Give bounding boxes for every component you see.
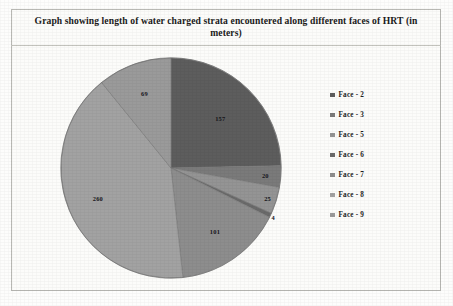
pie-data-label-4: 4 (272, 213, 275, 220)
legend-item-5[interactable]: Face - 7 (330, 165, 426, 185)
figure-page: Graph showing length of water charged st… (0, 0, 453, 306)
legend-item-label: Face - 2 (339, 91, 365, 99)
legend-item-label: Face - 9 (339, 211, 365, 219)
pie-data-label-6: 260 (93, 195, 103, 202)
legend-item-label: Face - 7 (339, 171, 365, 179)
pie-data-label-3: 25 (264, 195, 271, 202)
legend-swatch-icon (330, 193, 335, 198)
plot-area: 1572025410126069 (12, 47, 312, 290)
title-block: Graph showing length of water charged st… (11, 9, 441, 46)
legend-item-6[interactable]: Face - 8 (330, 185, 426, 205)
pie-data-label-5: 101 (210, 228, 220, 235)
legend-item-label: Face - 3 (339, 111, 365, 119)
pie-slice-1[interactable] (171, 58, 281, 168)
legend-swatch-icon (330, 213, 335, 218)
legend-item-1[interactable]: Face - 2 (330, 85, 426, 105)
chart-title: Graph showing length of water charged st… (25, 15, 427, 40)
legend-item-3[interactable]: Face - 5 (330, 125, 426, 145)
legend-swatch-icon (330, 113, 335, 118)
legend-swatch-icon (330, 133, 335, 138)
legend-swatch-icon (330, 93, 335, 98)
pie-svg (60, 57, 282, 279)
pie-data-label-2: 20 (262, 172, 269, 179)
legend-swatch-icon (330, 153, 335, 158)
pie-chart: 1572025410126069 (60, 57, 282, 279)
pie-slice-group (61, 58, 281, 278)
pie-data-label-7: 69 (141, 90, 148, 97)
legend-item-label: Face - 5 (339, 131, 365, 139)
legend-item-label: Face - 6 (339, 151, 365, 159)
legend-item-label: Face - 8 (339, 191, 365, 199)
legend: Face - 2Face - 3Face - 5Face - 6Face - 7… (330, 85, 426, 225)
pie-data-label-1: 157 (215, 114, 225, 121)
legend-swatch-icon (330, 173, 335, 178)
legend-item-4[interactable]: Face - 6 (330, 145, 426, 165)
legend-item-2[interactable]: Face - 3 (330, 105, 426, 125)
legend-item-7[interactable]: Face - 9 (330, 205, 426, 225)
